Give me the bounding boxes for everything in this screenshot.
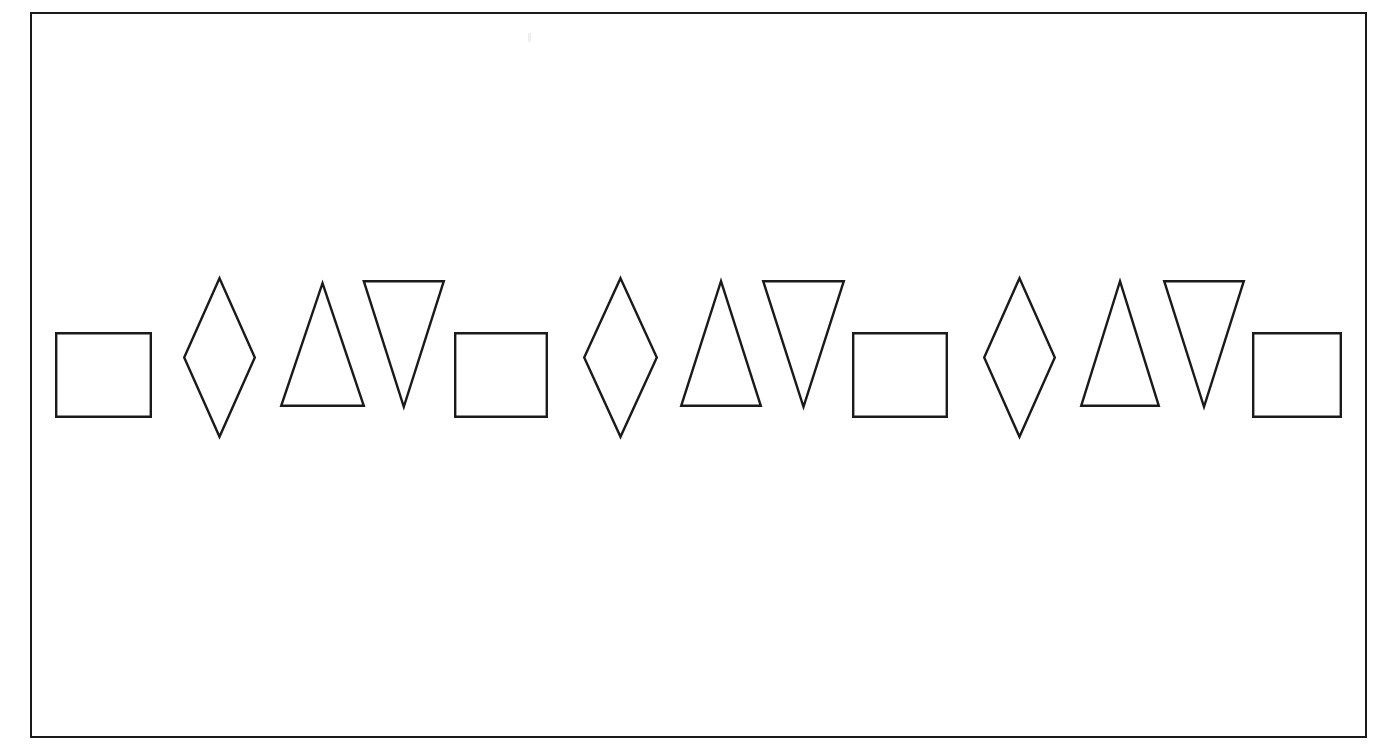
scan-artifact-speck	[528, 33, 531, 42]
figure-canvas	[0, 0, 1391, 756]
figure-border-frame	[30, 12, 1367, 738]
